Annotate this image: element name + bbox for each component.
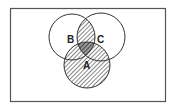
venn-diagram: B C A — [0, 0, 171, 111]
label-a: A — [83, 60, 90, 71]
label-c: C — [97, 34, 104, 45]
label-b: B — [67, 34, 74, 45]
